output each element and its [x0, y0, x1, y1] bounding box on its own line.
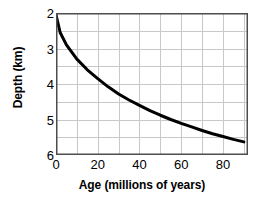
x-tick-label: 80: [216, 158, 230, 171]
y-tick-label: 5: [47, 113, 54, 126]
y-tick-label: 2: [47, 7, 54, 20]
depth-curve: [56, 15, 244, 142]
y-tick-label: 3: [47, 42, 54, 55]
y-gridlines: [57, 32, 247, 138]
plot-svg: [56, 13, 248, 155]
y-axis-tick-labels: 23456: [28, 13, 54, 155]
x-tick-label: 40: [132, 158, 146, 171]
x-axis-title: Age (millions of years): [28, 178, 256, 192]
y-axis-title: Depth (km): [9, 0, 27, 155]
x-tick-label: 20: [91, 158, 105, 171]
x-tick-label: 0: [52, 158, 59, 171]
plot-area: [56, 13, 248, 155]
x-tick-label: 60: [174, 158, 188, 171]
y-tick-label: 4: [47, 78, 54, 91]
chart-figure: Depth (km) 23456 020406080 Age (millions…: [0, 0, 263, 204]
x-axis-tick-labels: 020406080: [56, 158, 248, 174]
